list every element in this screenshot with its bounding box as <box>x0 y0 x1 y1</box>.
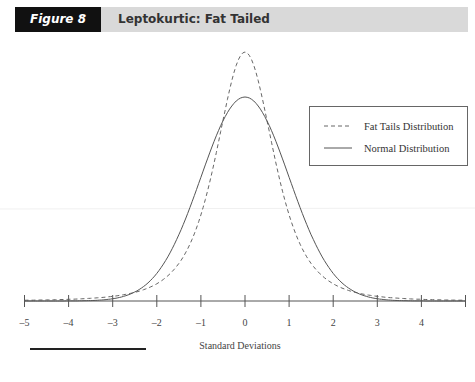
x-tick-label: 0 <box>243 317 248 328</box>
x-tick-label: –2 <box>151 317 162 328</box>
x-tick-label: 2 <box>331 317 336 328</box>
legend-box <box>310 107 468 166</box>
x-tick-label: 4 <box>419 317 424 328</box>
x-tick-label: –1 <box>195 317 206 328</box>
footnote-divider <box>30 348 146 350</box>
x-tick-label: –3 <box>107 317 118 328</box>
x-tick-label: –4 <box>63 317 74 328</box>
x-axis-ticks: –5–4–3–2–101234 <box>19 295 466 328</box>
scan-artifact-line <box>0 208 475 209</box>
curves-group <box>25 52 466 301</box>
distribution-chart: –5–4–3–2–101234 Standard Deviations Fat … <box>0 0 475 382</box>
legend: Fat Tails Distribution Normal Distributi… <box>310 107 468 166</box>
legend-label-normal: Normal Distribution <box>364 143 450 154</box>
fat-tails-curve <box>25 52 466 300</box>
legend-label-fat-tails: Fat Tails Distribution <box>364 121 454 132</box>
x-axis: –5–4–3–2–101234 Standard Deviations <box>19 295 467 351</box>
x-axis-title: Standard Deviations <box>199 340 280 351</box>
x-tick-label: 3 <box>375 317 380 328</box>
x-tick-label: –5 <box>19 317 30 328</box>
x-tick-label: 1 <box>287 317 292 328</box>
